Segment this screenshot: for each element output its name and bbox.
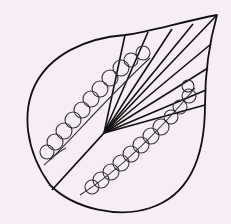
fan-veins <box>104 15 217 133</box>
leaf-illustration <box>0 0 231 224</box>
leaf-drawing <box>0 0 231 224</box>
